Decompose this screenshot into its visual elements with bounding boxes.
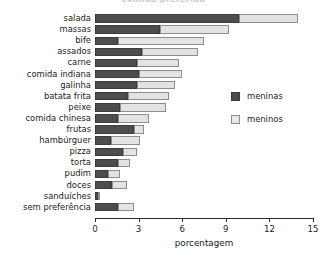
bar-segment-meninas bbox=[95, 14, 239, 22]
bar-segment-meninos bbox=[118, 37, 204, 45]
bar-row: massas bbox=[0, 24, 327, 35]
stacked-bar bbox=[95, 203, 134, 211]
stacked-bar bbox=[95, 59, 179, 67]
stacked-bar bbox=[95, 37, 204, 45]
stacked-bar bbox=[95, 159, 130, 167]
bar-segment-meninos bbox=[123, 148, 138, 156]
category-label: salada bbox=[0, 13, 91, 24]
stacked-bar bbox=[95, 125, 144, 133]
category-label: torta bbox=[0, 157, 91, 168]
bar-segment-meninas bbox=[95, 70, 139, 78]
legend-item-meninas: meninas bbox=[231, 92, 323, 101]
category-label: sem preferência bbox=[0, 202, 91, 213]
stacked-bar bbox=[95, 192, 100, 200]
bar-segment-meninas bbox=[95, 48, 142, 56]
stacked-bar bbox=[95, 48, 198, 56]
bar-row: assados bbox=[0, 46, 327, 57]
bar-segment-meninos bbox=[137, 59, 179, 67]
x-axis-tick bbox=[269, 218, 270, 222]
x-axis-tick-label: 6 bbox=[170, 224, 194, 234]
category-label: comida indiana bbox=[0, 69, 91, 80]
bar-row: torta bbox=[0, 157, 327, 168]
bar-segment-meninas bbox=[95, 181, 112, 189]
category-label: assados bbox=[0, 46, 91, 57]
bar-segment-meninas bbox=[95, 103, 120, 111]
category-label: comida chinesa bbox=[0, 113, 91, 124]
bar-row: salada bbox=[0, 13, 327, 24]
bar-row: pudim bbox=[0, 168, 327, 179]
x-axis-tick-label: 9 bbox=[214, 224, 238, 234]
x-axis-line bbox=[95, 218, 313, 219]
stacked-bar bbox=[95, 170, 120, 178]
bar-segment-meninas bbox=[95, 92, 128, 100]
bar-segment-meninos bbox=[128, 92, 169, 100]
bar-segment-meninas bbox=[95, 59, 137, 67]
legend-swatch-meninas bbox=[231, 92, 240, 101]
stacked-bar bbox=[95, 181, 127, 189]
bar-segment-meninos bbox=[120, 103, 167, 111]
bar-chart: comida preferida saladamassasbifeassados… bbox=[0, 0, 327, 270]
category-label: carne bbox=[0, 57, 91, 68]
stacked-bar bbox=[95, 14, 298, 22]
bar-segment-meninas bbox=[95, 170, 108, 178]
bar-segment-meninos bbox=[137, 81, 175, 89]
stacked-bar bbox=[95, 81, 175, 89]
bar-row: comida indiana bbox=[0, 69, 327, 80]
legend-item-meninos: meninos bbox=[231, 115, 323, 124]
stacked-bar bbox=[95, 25, 229, 33]
category-label: hambúrguer bbox=[0, 135, 91, 146]
bar-segment-meninos bbox=[118, 159, 130, 167]
bar-segment-meninas bbox=[95, 159, 118, 167]
stacked-bar bbox=[95, 114, 149, 122]
chart-legend: meninas meninos bbox=[231, 92, 323, 138]
bar-segment-meninos bbox=[239, 14, 299, 22]
x-axis-tick bbox=[95, 218, 96, 222]
bar-segment-meninos bbox=[118, 203, 134, 211]
bar-row: sem preferência bbox=[0, 202, 327, 213]
bar-row: carne bbox=[0, 57, 327, 68]
bar-segment-meninos bbox=[160, 25, 228, 33]
category-label: frutas bbox=[0, 124, 91, 135]
stacked-bar bbox=[95, 103, 166, 111]
bar-segment-meninas bbox=[95, 136, 111, 144]
bar-row: pizza bbox=[0, 146, 327, 157]
bar-segment-meninas bbox=[95, 203, 118, 211]
bar-segment-meninas bbox=[95, 114, 118, 122]
category-label: pizza bbox=[0, 146, 91, 157]
x-axis-tick-label: 15 bbox=[301, 224, 325, 234]
bar-segment-meninos bbox=[142, 48, 199, 56]
category-label: batata frita bbox=[0, 91, 91, 102]
bar-row: galinha bbox=[0, 80, 327, 91]
x-axis-tick bbox=[226, 218, 227, 222]
bar-segment-meninos bbox=[98, 192, 100, 200]
category-label: pudim bbox=[0, 168, 91, 179]
x-axis-tick-label: 3 bbox=[127, 224, 151, 234]
x-axis-tick bbox=[182, 218, 183, 222]
stacked-bar bbox=[95, 92, 169, 100]
legend-label-meninos: meninos bbox=[247, 114, 283, 125]
category-label: peixe bbox=[0, 102, 91, 113]
bar-segment-meninos bbox=[118, 114, 149, 122]
category-label: massas bbox=[0, 24, 91, 35]
bar-segment-meninas bbox=[95, 37, 118, 45]
category-label: sanduíches bbox=[0, 191, 91, 202]
bar-segment-meninos bbox=[112, 181, 127, 189]
legend-swatch-meninos bbox=[231, 115, 240, 124]
bar-row: doces bbox=[0, 180, 327, 191]
bar-row: bife bbox=[0, 35, 327, 46]
x-axis-label: porcentagem bbox=[95, 238, 313, 248]
stacked-bar bbox=[95, 148, 137, 156]
x-axis-tick bbox=[139, 218, 140, 222]
bar-segment-meninos bbox=[134, 125, 144, 133]
bar-segment-meninos bbox=[108, 170, 120, 178]
bar-segment-meninas bbox=[95, 125, 134, 133]
category-label: bife bbox=[0, 35, 91, 46]
x-axis-tick bbox=[313, 218, 314, 222]
bar-segment-meninos bbox=[139, 70, 183, 78]
bar-row: sanduíches bbox=[0, 191, 327, 202]
category-label: galinha bbox=[0, 80, 91, 91]
legend-label-meninas: meninas bbox=[247, 91, 283, 102]
bar-segment-meninos bbox=[111, 136, 140, 144]
category-label: doces bbox=[0, 180, 91, 191]
bar-segment-meninas bbox=[95, 148, 123, 156]
